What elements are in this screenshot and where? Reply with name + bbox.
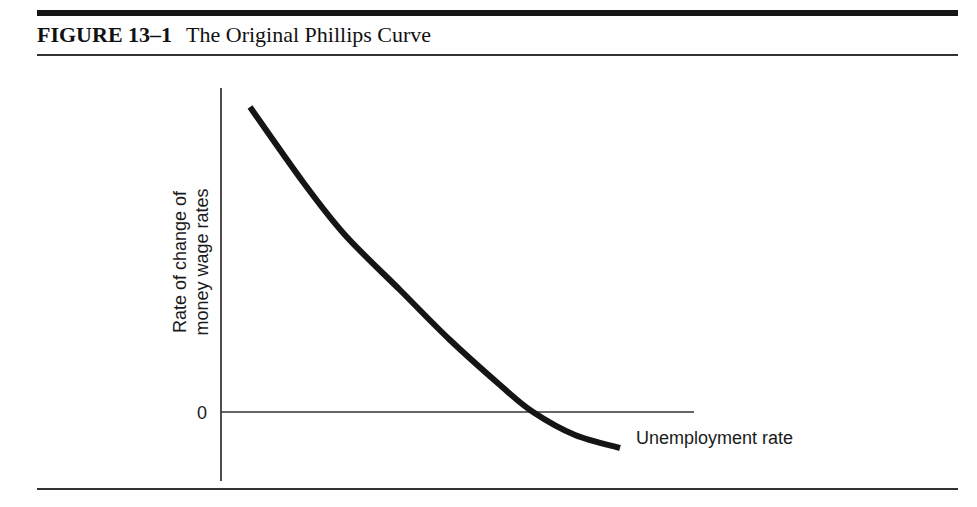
y-tick-label-zero: 0 [197, 403, 207, 423]
y-axis-label: Rate of change of money wage rates [170, 188, 212, 335]
y-axis-label-line-2: money wage rates [192, 188, 212, 335]
phillips-curve-chart: Rate of change of money wage rates 0 Une… [0, 0, 977, 507]
x-axis-label: Unemployment rate [636, 428, 793, 448]
phillips-curve-line [250, 107, 620, 448]
bottom-rule [37, 488, 958, 490]
y-axis-label-line-1: Rate of change of [170, 190, 190, 333]
